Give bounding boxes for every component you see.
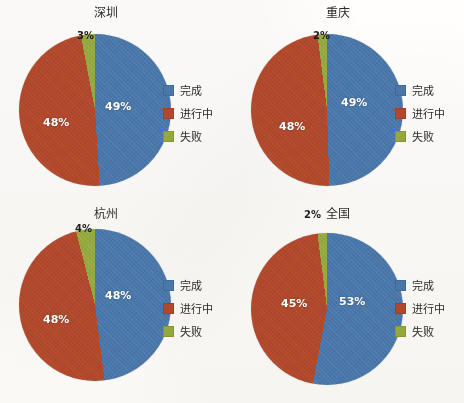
pie-chart[interactable]: [251, 233, 403, 385]
legend-label: 失败: [180, 323, 202, 339]
legend-label: 失败: [180, 128, 202, 144]
slice-label-failed: 2%: [313, 30, 330, 41]
legend-swatch-icon: [163, 303, 174, 314]
chart-legend: 完成 进行中 失败: [163, 277, 213, 339]
pie-chart[interactable]: [251, 34, 403, 186]
legend-label: 完成: [180, 82, 202, 98]
legend-swatch-icon: [395, 85, 406, 96]
chart-panel-national: 全国 53% 45% 2% 完成 进行中 失败: [232, 201, 464, 403]
legend-label: 进行中: [180, 105, 213, 121]
pie-chart[interactable]: [19, 34, 171, 186]
slice-label-failed: 4%: [75, 223, 92, 234]
pie-wrapper: 53% 45% 2%: [251, 233, 403, 385]
legend-label: 进行中: [180, 300, 213, 316]
legend-label: 失败: [412, 128, 434, 144]
legend-swatch-icon: [163, 280, 174, 291]
pie-chart-grid: 深圳 49% 48% 3% 完成 进行中 失败 重庆: [0, 0, 464, 403]
legend-item-in-progress[interactable]: 进行中: [163, 105, 213, 121]
chart-panel-chongqing: 重庆 49% 48% 2% 完成 进行中 失败: [232, 0, 464, 201]
legend-item-completed[interactable]: 完成: [395, 277, 445, 293]
legend-label: 完成: [412, 82, 434, 98]
slice-label-in-progress: 48%: [43, 116, 69, 129]
slice-label-in-progress: 45%: [281, 297, 307, 310]
chart-title: 深圳: [0, 3, 222, 20]
chart-panel-shenzhen: 深圳 49% 48% 3% 完成 进行中 失败: [0, 0, 232, 201]
legend-swatch-icon: [163, 326, 174, 337]
chart-legend: 完成 进行中 失败: [395, 82, 445, 144]
legend-item-in-progress[interactable]: 进行中: [395, 300, 445, 316]
legend-item-failed[interactable]: 失败: [163, 128, 213, 144]
chart-title: 全国: [222, 204, 454, 221]
slice-label-in-progress: 48%: [279, 120, 305, 133]
pie-wrapper: 49% 48% 3%: [19, 34, 171, 186]
legend-swatch-icon: [395, 131, 406, 142]
legend-item-in-progress[interactable]: 进行中: [395, 105, 445, 121]
legend-label: 进行中: [412, 105, 445, 121]
legend-item-failed[interactable]: 失败: [395, 323, 445, 339]
chart-title: 杭州: [0, 204, 222, 221]
legend-swatch-icon: [395, 303, 406, 314]
slice-label-in-progress: 48%: [43, 313, 69, 326]
pie-wrapper: 49% 48% 2%: [251, 34, 403, 186]
legend-item-in-progress[interactable]: 进行中: [163, 300, 213, 316]
slice-label-completed: 53%: [339, 295, 365, 308]
slice-label-completed: 49%: [105, 100, 131, 113]
legend-swatch-icon: [395, 280, 406, 291]
pie-chart[interactable]: [19, 229, 171, 381]
legend-label: 完成: [412, 277, 434, 293]
legend-item-completed[interactable]: 完成: [163, 277, 213, 293]
legend-item-failed[interactable]: 失败: [395, 128, 445, 144]
legend-item-completed[interactable]: 完成: [395, 82, 445, 98]
slice-label-failed: 3%: [77, 30, 94, 41]
legend-swatch-icon: [163, 85, 174, 96]
chart-legend: 完成 进行中 失败: [395, 277, 445, 339]
legend-item-completed[interactable]: 完成: [163, 82, 213, 98]
pie-wrapper: 48% 48% 4%: [19, 229, 171, 381]
legend-label: 进行中: [412, 300, 445, 316]
slice-label-failed: 2%: [304, 209, 321, 220]
legend-swatch-icon: [163, 108, 174, 119]
slice-label-completed: 49%: [341, 96, 367, 109]
chart-title: 重庆: [222, 3, 454, 20]
chart-panel-hangzhou: 杭州 48% 48% 4% 完成 进行中 失败: [0, 201, 232, 403]
chart-legend: 完成 进行中 失败: [163, 82, 213, 144]
legend-swatch-icon: [395, 108, 406, 119]
legend-item-failed[interactable]: 失败: [163, 323, 213, 339]
legend-label: 完成: [180, 277, 202, 293]
slice-label-completed: 48%: [105, 289, 131, 302]
legend-swatch-icon: [163, 131, 174, 142]
legend-label: 失败: [412, 323, 434, 339]
legend-swatch-icon: [395, 326, 406, 337]
